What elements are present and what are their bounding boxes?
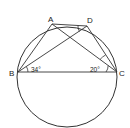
angle-arc-B: [26, 67, 28, 73]
circle-diagram: A D B C 34° 20°: [0, 0, 130, 128]
angle-arc-C-inner: [100, 55, 106, 60]
point-label-B: B: [9, 69, 14, 78]
point-label-C: C: [119, 69, 125, 78]
angle-arc-C: [106, 66, 108, 73]
segment-BD: [18, 26, 87, 72]
segment-BA: [18, 24, 52, 72]
point-label-A: A: [48, 15, 54, 24]
angle-label-C: 20°: [90, 66, 100, 73]
point-label-D: D: [87, 16, 93, 25]
segment-AD: [52, 24, 87, 26]
circle: [17, 27, 117, 127]
angle-label-B: 34°: [31, 66, 41, 73]
